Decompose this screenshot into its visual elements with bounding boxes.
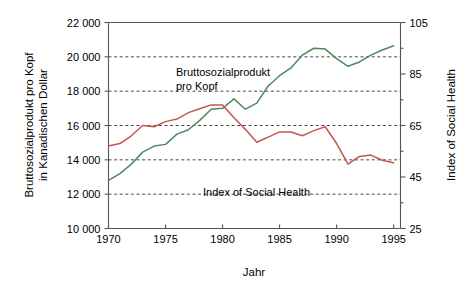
x-tick-label-1980: 1980 [210, 233, 234, 245]
y-axis-left-title-line2: in Kanadischen Dollar [37, 69, 49, 181]
y-left-tick-label-20000: 20 000 [67, 51, 101, 63]
y-left-tick-label-10000: 10 000 [67, 223, 101, 235]
chart-background [0, 0, 472, 290]
y-left-tick-label-18000: 18 000 [67, 85, 101, 97]
x-tick-label-1985: 1985 [267, 233, 291, 245]
y-left-tick-label-14000: 14 000 [67, 154, 101, 166]
y-right-tick-label-105: 105 [410, 17, 428, 29]
gnp-series-annotation-line2: pro Kopf [176, 80, 219, 92]
y-left-tick-label-16000: 16 000 [67, 120, 101, 132]
y-axis-right-title: Index of Social Health [445, 69, 457, 181]
gnp-vs-social-health-line-chart: 197019751980198519901995 10 00012 00014 … [0, 0, 472, 290]
chart-figure: 197019751980198519901995 10 00012 00014 … [0, 0, 472, 290]
y-right-tick-label-85: 85 [410, 68, 422, 80]
x-axis-title: Jahr [243, 266, 266, 278]
ish-series-annotation: Index of Social Health [203, 186, 310, 198]
y-axis-left-title-line1: Bruttosozialprodukt pro Kopf [23, 52, 35, 198]
y-left-tick-label-12000: 12 000 [67, 188, 101, 200]
y-right-tick-label-25: 25 [410, 223, 422, 235]
x-tick-label-1990: 1990 [324, 233, 348, 245]
y-right-tick-label-65: 65 [410, 120, 422, 132]
x-tick-label-1975: 1975 [153, 233, 177, 245]
y-right-tick-label-45: 45 [410, 171, 422, 183]
x-tick-label-1995: 1995 [381, 233, 405, 245]
gnp-series-annotation-line1: Bruttosozialprodukt [176, 66, 270, 78]
y-left-tick-label-22000: 22 000 [67, 17, 101, 29]
